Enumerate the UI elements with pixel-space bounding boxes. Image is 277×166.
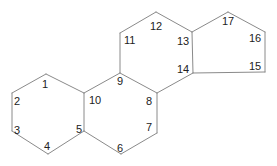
atom-label-2: 2 <box>14 95 20 107</box>
bond-13-14 <box>192 32 193 73</box>
bond-5-6 <box>84 131 121 154</box>
atom-label-15: 15 <box>249 60 261 72</box>
atom-label-6: 6 <box>117 142 123 154</box>
bond-9-10 <box>84 73 120 93</box>
atom-label-11: 11 <box>124 34 135 46</box>
atom-label-5: 5 <box>76 123 82 135</box>
atom-label-12: 12 <box>150 20 162 32</box>
atom-label-13: 13 <box>177 35 189 47</box>
steroid-skeleton-diagram: 1234567891011121314151617 <box>0 0 277 166</box>
atom-label-9: 9 <box>117 75 123 87</box>
bond-6-7 <box>121 133 157 154</box>
bond-1-2 <box>12 74 46 93</box>
bond-14-8 <box>157 73 193 93</box>
bond-10-1 <box>46 74 84 93</box>
atom-label-7: 7 <box>146 121 152 133</box>
atom-label-14: 14 <box>177 63 189 75</box>
atom-label-10: 10 <box>89 94 101 106</box>
bond-lines <box>12 12 265 154</box>
atom-label-3: 3 <box>14 124 20 136</box>
atom-number-labels: 1234567891011121314151617 <box>14 15 261 154</box>
atom-label-1: 1 <box>42 78 48 90</box>
atom-label-8: 8 <box>146 95 152 107</box>
atom-label-4: 4 <box>44 140 50 152</box>
bond-8-9 <box>120 73 157 93</box>
bond-15-14 <box>193 72 265 73</box>
atom-label-17: 17 <box>222 15 234 27</box>
atom-label-16: 16 <box>249 32 261 44</box>
